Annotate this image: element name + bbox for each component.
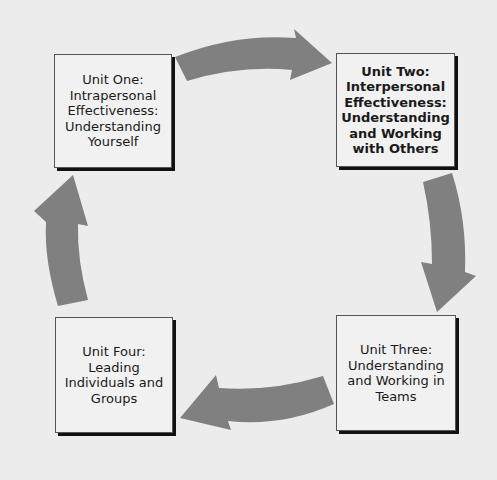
unit-one-box: Unit One: Intrapersonal Effectiveness: U…	[54, 54, 172, 168]
arrow-right-icon	[175, 29, 332, 81]
unit-two-label: Unit Two: Interpersonal Effectiveness: U…	[341, 64, 450, 157]
unit-three-box: Unit Three: Understanding and Working in…	[336, 315, 456, 431]
arrow-left-icon	[180, 375, 334, 430]
unit-one-label: Unit One: Intrapersonal Effectiveness: U…	[65, 72, 161, 150]
unit-two-box: Unit Two: Interpersonal Effectiveness: U…	[336, 53, 455, 167]
unit-four-label: Unit Four: Leading Individuals and Group…	[65, 344, 164, 406]
cycle-diagram: Unit One: Intrapersonal Effectiveness: U…	[0, 0, 497, 480]
arrow-down-icon	[421, 173, 476, 312]
arrow-up-icon	[34, 175, 88, 306]
unit-three-label: Unit Three: Understanding and Working in…	[347, 342, 445, 404]
unit-four-box: Unit Four: Leading Individuals and Group…	[55, 317, 173, 433]
